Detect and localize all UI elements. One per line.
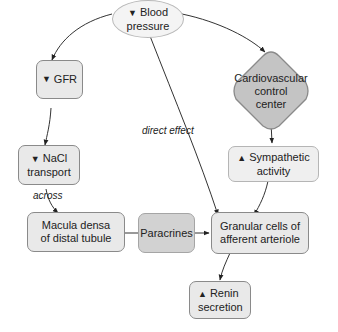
node-text: GFR — [54, 73, 77, 86]
node-text: NaCl — [43, 152, 67, 164]
node-text: of distal tubule — [41, 232, 112, 244]
node-text: Paracrines — [140, 227, 193, 240]
node-text: activity — [257, 165, 291, 177]
node-text: Granular cells of — [220, 220, 300, 232]
node-text: Blood — [140, 6, 168, 18]
down-arrow-icon: ▼ — [31, 154, 40, 164]
node-macula-densa: Macula densa of distal tubule — [27, 212, 125, 252]
node-renin-secretion: ▲Renin secretion — [189, 281, 251, 319]
node-sympathetic-activity: ▲Sympathetic activity — [228, 146, 319, 182]
edge-label-across: across — [33, 190, 62, 201]
down-arrow-icon: ▼ — [42, 73, 51, 86]
node-text: transport — [27, 166, 70, 178]
node-text: pressure — [127, 20, 170, 32]
node-text: Sympathetic — [249, 151, 310, 163]
node-text: Renin — [210, 287, 239, 299]
node-paracrines: Paracrines — [138, 213, 195, 253]
up-arrow-icon: ▲ — [237, 153, 246, 163]
node-granular-cells: Granular cells of afferent arteriole — [211, 212, 309, 254]
node-text: Macula densa — [42, 219, 111, 231]
node-nacl-transport: ▼NaCl transport — [18, 145, 80, 185]
node-text: control — [254, 85, 287, 97]
node-cardiovascular-control-center: Cardiovascular control center — [228, 48, 314, 134]
up-arrow-icon: ▲ — [198, 289, 207, 299]
down-arrow-icon: ▼ — [128, 8, 137, 18]
node-text: afferent arteriole — [220, 233, 300, 245]
edge-label-direct-effect: direct effect — [142, 125, 194, 136]
node-gfr: ▼GFR — [36, 60, 83, 99]
node-blood-pressure: ▼Blood pressure — [112, 0, 184, 38]
node-text: secretion — [198, 301, 243, 313]
node-text: Cardiovascular — [234, 72, 307, 84]
node-text: center — [256, 98, 287, 110]
